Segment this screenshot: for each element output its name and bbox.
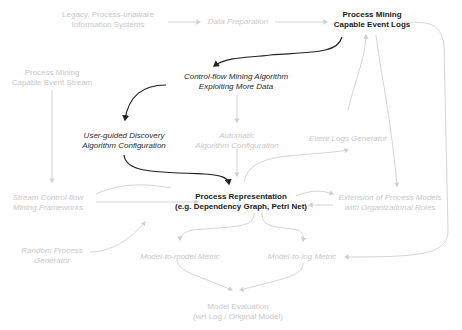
node-text: Process Mining: [334, 10, 410, 20]
node-model-evaluation: Model Evaluation (wrt Log / Original Mod…: [193, 302, 283, 322]
node-text: Process Mining: [12, 68, 93, 78]
node-text: Process Representation: [175, 192, 307, 202]
node-data-preparation: Data Preparation: [208, 17, 268, 27]
node-text: Generator: [21, 256, 82, 266]
node-text: Mining Frameworks: [13, 203, 84, 213]
node-random-process-generator: Random Process Generator: [21, 246, 82, 266]
node-model-to-model-metric: Model-to-model Metric: [140, 252, 220, 262]
node-event-logs: Process Mining Capable Event Logs: [334, 10, 410, 30]
node-automatic-configuration: Automatic Algorithm Configuration: [195, 131, 279, 151]
node-event-stream: Process Mining Capable Event Stream: [12, 68, 93, 88]
node-text: Capable Event Logs: [334, 20, 410, 30]
node-legacy-systems: Legacy, Process-unaware Information Syst…: [62, 10, 154, 30]
node-text: Control-flow Mining Algorithm: [184, 72, 288, 82]
node-text: with Organizational Roles: [338, 203, 441, 213]
node-text: Algorithm Configuration: [82, 141, 166, 151]
node-stream-control-flow: Stream Control-flow Mining Frameworks: [13, 193, 84, 213]
node-model-to-log-metric: Model-to-log Metric: [268, 252, 336, 262]
node-text: Event Logs Generator: [309, 134, 387, 144]
node-text: (e.g. Dependency Graph, Petri Net): [175, 202, 307, 212]
node-control-flow-algorithm: Control-flow Mining Algorithm Exploiting…: [184, 72, 288, 92]
node-process-representation: Process Representation (e.g. Dependency …: [175, 192, 307, 212]
node-event-logs-generator: Event Logs Generator: [309, 134, 387, 144]
node-text: Stream Control-flow: [13, 193, 84, 203]
node-text: Data Preparation: [208, 17, 268, 27]
node-text: Model-to-log Metric: [268, 252, 336, 262]
node-text: Random Process: [21, 246, 82, 256]
node-text: Algorithm Configuration: [195, 141, 279, 151]
node-user-guided-discovery: User-guided Discovery Algorithm Configur…: [82, 131, 166, 151]
node-text: Automatic: [195, 131, 279, 141]
node-text: Model Evaluation: [193, 302, 283, 312]
node-extension-org-roles: Extension of Process Models with Organiz…: [338, 193, 441, 213]
node-text: Model-to-model Metric: [140, 252, 220, 262]
node-text: Information Systems: [62, 20, 154, 30]
node-text: Exploiting More Data: [184, 82, 288, 92]
node-text: (wrt Log / Original Model): [193, 312, 283, 322]
node-text: Capable Event Stream: [12, 78, 93, 88]
node-text: User-guided Discovery: [82, 131, 166, 141]
node-text: Legacy, Process-unaware: [62, 10, 154, 20]
diagram-edges: [0, 0, 462, 330]
node-text: Extension of Process Models: [338, 193, 441, 203]
